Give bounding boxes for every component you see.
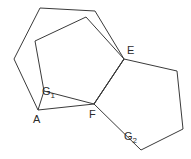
label-F-text: F bbox=[89, 108, 96, 120]
label-A-text: A bbox=[33, 113, 40, 125]
label-A: A bbox=[33, 114, 40, 125]
geometry-figure: E G1 A F G2 bbox=[0, 0, 191, 159]
label-G2-text: G bbox=[124, 130, 133, 142]
label-G1-subscript: 1 bbox=[51, 91, 55, 100]
label-G1: G1 bbox=[42, 86, 55, 100]
label-G2-subscript: 2 bbox=[133, 136, 137, 145]
label-F: F bbox=[89, 109, 96, 120]
outer-hexagon bbox=[14, 8, 124, 110]
geometry-canvas bbox=[0, 0, 191, 159]
label-G2: G2 bbox=[124, 131, 137, 145]
label-G1-text: G bbox=[42, 85, 51, 97]
label-E: E bbox=[127, 45, 134, 56]
right-pentagon bbox=[94, 59, 183, 150]
label-E-text: E bbox=[127, 44, 134, 56]
